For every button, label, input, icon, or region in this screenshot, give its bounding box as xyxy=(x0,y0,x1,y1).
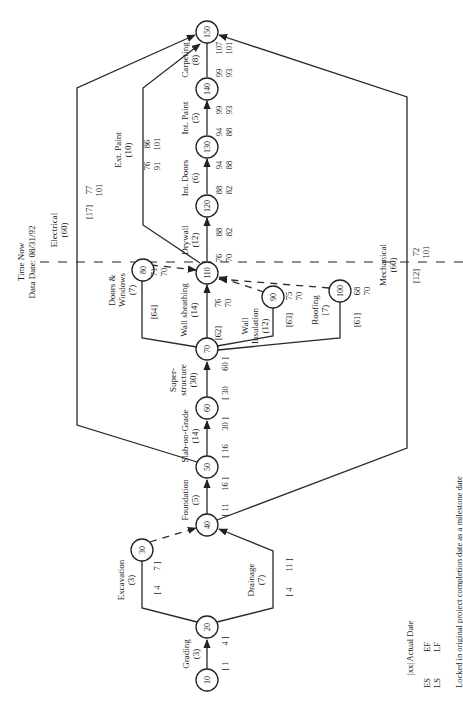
svg-text:[17]: [17] xyxy=(84,205,94,219)
svg-text:Windows: Windows xyxy=(117,272,127,307)
svg-text:[63]: [63] xyxy=(284,313,294,327)
svg-text:107: 107 xyxy=(214,42,224,55)
svg-text:90: 90 xyxy=(269,293,278,301)
svg-text:[ 4: [ 4 xyxy=(284,587,294,597)
svg-text:50: 50 xyxy=(203,463,212,471)
svg-text:75: 75 xyxy=(284,292,294,301)
node-10: 10 xyxy=(196,669,218,691)
svg-text:ES: ES xyxy=(422,678,432,688)
svg-text:70: 70 xyxy=(294,292,304,301)
svg-text:60 ]: 60 ] xyxy=(220,357,230,371)
svg-text:[ 4: [ 4 xyxy=(152,585,162,595)
svg-text:|xx| Actual Date: |xx| Actual Date xyxy=(405,620,415,675)
svg-text:150: 150 xyxy=(203,26,212,38)
svg-text:99: 99 xyxy=(214,106,224,115)
svg-text:(12): (12) xyxy=(260,319,270,334)
svg-text:Mechanical: Mechanical xyxy=(378,244,388,286)
node-60: 60 xyxy=(196,397,218,419)
svg-text:68: 68 xyxy=(352,287,362,296)
dummy-30-40 xyxy=(150,528,196,542)
svg-text:76: 76 xyxy=(142,162,152,171)
svg-text:20: 20 xyxy=(203,623,212,631)
svg-text:(3): (3) xyxy=(191,649,201,660)
svg-text:(5): (5) xyxy=(190,113,200,124)
node-110: 110 xyxy=(196,262,218,284)
svg-text:11 ]: 11 ] xyxy=(284,558,294,571)
svg-text:Slab-on-Grade: Slab-on-Grade xyxy=(180,410,190,463)
svg-text:70: 70 xyxy=(362,287,372,296)
svg-text:82: 82 xyxy=(224,228,234,237)
ext-paint-arrow xyxy=(143,44,200,263)
svg-text:60: 60 xyxy=(203,404,212,412)
svg-text:30: 30 xyxy=(138,546,147,554)
svg-text:Data Date: 08/31/92: Data Date: 08/31/92 xyxy=(27,226,37,299)
dummy-90-110 xyxy=(219,277,264,292)
svg-text:100: 100 xyxy=(336,285,345,297)
svg-text:[64]: [64] xyxy=(149,305,159,319)
svg-text:91: 91 xyxy=(152,162,162,171)
svg-text:Locked in original project com: Locked in original project completion da… xyxy=(454,476,463,688)
svg-text:Excavation: Excavation xyxy=(116,559,126,600)
svg-text:[62]: [62] xyxy=(213,326,223,340)
svg-text:86: 86 xyxy=(142,140,152,149)
svg-text:77: 77 xyxy=(84,186,94,195)
svg-text:[7): [7) xyxy=(320,305,330,316)
svg-text:140: 140 xyxy=(203,83,212,95)
svg-text:(8): (8) xyxy=(190,55,200,66)
svg-text:Time Now: Time Now xyxy=(16,242,26,281)
svg-text:(10): (10) xyxy=(123,143,133,158)
cpm-network-diagram: 10 20 30 40 50 60 70 80 90 100 110 120 1… xyxy=(0,0,463,709)
svg-text:70: 70 xyxy=(224,254,234,263)
svg-text:76: 76 xyxy=(213,299,223,308)
svg-text:(14): (14) xyxy=(189,303,199,318)
legend: |xx| Actual Date ES EF LS LF Locked in o… xyxy=(405,476,463,688)
svg-text:88: 88 xyxy=(224,128,234,137)
svg-text:76: 76 xyxy=(214,254,224,263)
node-130: 130 xyxy=(196,136,218,158)
svg-text:Electrical: Electrical xyxy=(49,212,59,247)
svg-text:LF: LF xyxy=(432,642,442,652)
svg-text:Doors &: Doors & xyxy=(107,274,117,305)
node-90: 90 xyxy=(262,286,284,308)
svg-text:80: 80 xyxy=(139,266,148,274)
svg-text:Ext. Paint: Ext. Paint xyxy=(113,132,123,168)
svg-text:70: 70 xyxy=(203,345,212,353)
node-20: 20 xyxy=(196,616,218,638)
svg-text:110: 110 xyxy=(203,267,212,279)
svg-text:16 ]: 16 ] xyxy=(220,477,230,491)
svg-text:101: 101 xyxy=(421,246,431,259)
svg-text:(7): (7) xyxy=(256,575,266,586)
excavation-arrow xyxy=(142,561,197,622)
node-140: 140 xyxy=(196,78,218,100)
svg-text:7 ]: 7 ] xyxy=(152,561,162,570)
svg-text:(12): (12) xyxy=(190,233,200,248)
svg-text:Int. Paint: Int. Paint xyxy=(180,101,190,134)
nodes: 10 20 30 40 50 60 70 80 90 100 110 120 1… xyxy=(131,21,351,691)
svg-text:[12]: [12] xyxy=(411,269,421,283)
svg-text:Grading: Grading xyxy=(181,639,191,669)
svg-text:88: 88 xyxy=(214,228,224,237)
svg-text:(14): (14) xyxy=(190,429,200,444)
svg-text:(60): (60) xyxy=(388,258,398,273)
node-100: 100 xyxy=(329,280,351,302)
svg-text:93: 93 xyxy=(224,69,234,78)
svg-text:Wall: Wall xyxy=(240,317,250,334)
time-now-label: Time Now Data Date: 08/31/92 xyxy=(16,226,37,299)
node-120: 120 xyxy=(196,195,218,217)
svg-text:[ 1: [ 1 xyxy=(220,661,230,670)
svg-text:(6): (6) xyxy=(190,173,200,184)
svg-text:(7): (7) xyxy=(127,285,137,296)
svg-text:(30): (30) xyxy=(188,373,198,388)
svg-text:Int. Doors: Int. Doors xyxy=(180,159,190,196)
svg-text:[ 16: [ 16 xyxy=(220,444,230,457)
svg-text:[61]: [61] xyxy=(352,313,362,327)
svg-text:93: 93 xyxy=(224,106,234,115)
svg-text:Roofing: Roofing xyxy=(310,295,320,325)
svg-text:4 ]: 4 ] xyxy=(220,636,230,645)
activity-labels: Grading (3) [ 1 4 ] Excavation (3) [ 4 7… xyxy=(49,42,431,671)
svg-text:Insulation: Insulation xyxy=(250,308,260,344)
svg-text:82: 82 xyxy=(224,186,234,195)
svg-text:70: 70 xyxy=(159,268,169,277)
svg-text:Drywall: Drywall xyxy=(180,225,190,255)
svg-text:94: 94 xyxy=(214,127,224,136)
